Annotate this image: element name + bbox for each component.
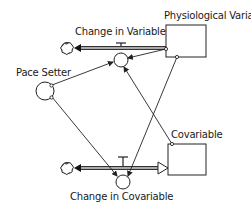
change-in-variable-label: Change in Variable	[75, 26, 166, 38]
change-in-covariable-converter	[116, 175, 130, 189]
change-in-variable-converter	[114, 53, 128, 67]
physiological-variable-stock	[166, 25, 206, 57]
covariable-stock	[168, 144, 206, 175]
cloud-icon	[61, 43, 74, 55]
physiological-variable-label: Physiological Variable	[164, 10, 251, 22]
change-in-covariable-label: Change in Covariable	[70, 191, 173, 203]
cloud-icon	[61, 163, 74, 175]
pace-setter-label: Pace Setter	[16, 67, 71, 79]
covariable-label: Covariable	[171, 129, 222, 141]
stock-flow-diagram: Physiological Variable Change in Variabl…	[0, 0, 251, 212]
